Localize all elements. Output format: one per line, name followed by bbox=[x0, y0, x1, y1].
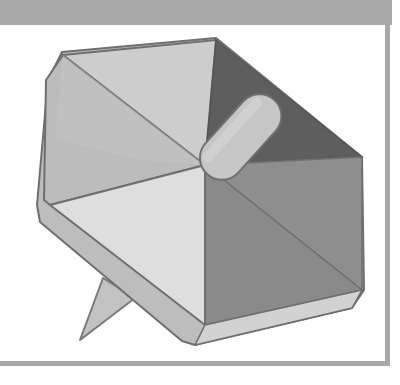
reflector-illustration bbox=[0, 0, 400, 385]
